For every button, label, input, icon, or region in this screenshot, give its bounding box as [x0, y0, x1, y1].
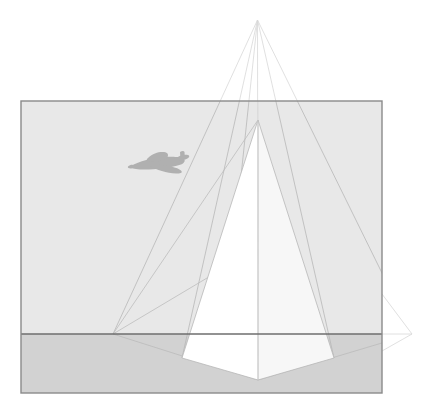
perspective-diagram — [0, 0, 427, 409]
illustration-canvas — [0, 0, 427, 409]
